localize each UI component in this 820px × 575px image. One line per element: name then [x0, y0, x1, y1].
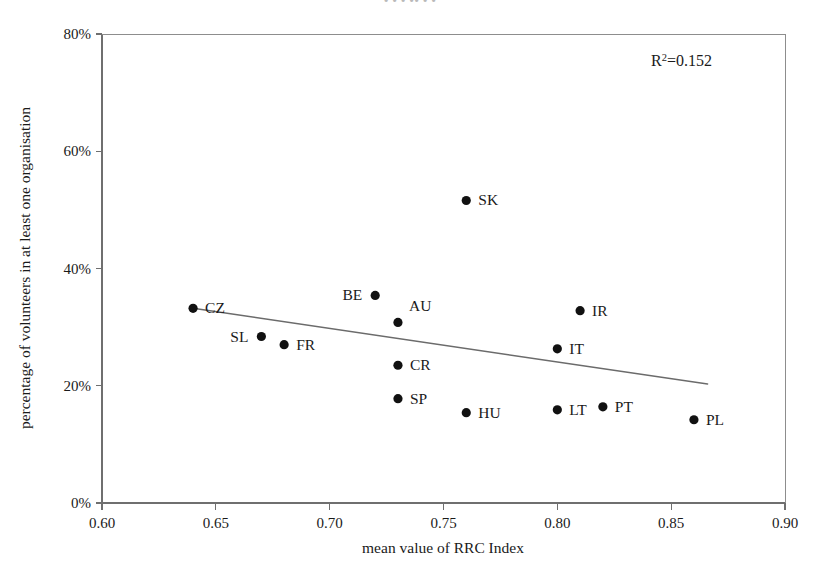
clipped-header-text: • • • •• • •: [0, 0, 820, 7]
r-squared-prefix: R: [651, 52, 662, 69]
x-axis-title: mean value of RRC Index: [362, 539, 524, 556]
data-point-label-hu: HU: [478, 404, 500, 421]
data-point-ir[interactable]: [576, 306, 585, 315]
data-point-label-pl: PL: [706, 411, 724, 428]
x-tick-label: 0.90: [772, 515, 798, 531]
data-point-pl[interactable]: [689, 415, 698, 424]
data-point-cz[interactable]: [188, 304, 197, 313]
data-point-label-ir: IR: [592, 302, 608, 319]
data-point-label-sl: SL: [230, 328, 248, 345]
x-tick-label: 0.70: [317, 515, 343, 531]
x-tick-label: 0.85: [658, 515, 684, 531]
data-point-group: CZSLFRBEAUCRSPSKHUITLTIRPTPL: [188, 191, 724, 427]
data-point-label-be: BE: [342, 286, 362, 303]
x-tick-label: 0.80: [544, 515, 570, 531]
data-point-label-sk: SK: [478, 191, 499, 208]
data-point-cr[interactable]: [393, 361, 402, 370]
data-point-fr[interactable]: [280, 340, 289, 349]
y-tick-label: 20%: [64, 378, 92, 394]
r-squared-value: =0.152: [667, 52, 712, 69]
data-point-it[interactable]: [553, 344, 562, 353]
data-point-label-lt: LT: [569, 401, 587, 418]
data-point-label-pt: PT: [615, 398, 634, 415]
r-squared-annotation: R2=0.152: [651, 52, 712, 70]
x-tick-label: 0.75: [430, 515, 456, 531]
x-axis-ticks: [102, 503, 785, 510]
x-axis-tick-labels: 0.600.650.700.750.800.850.90: [89, 515, 798, 531]
y-tick-label: 60%: [64, 143, 92, 159]
y-axis-tick-labels: 0%20%40%60%80%: [64, 26, 92, 511]
y-axis-title: percentage of volunteers in at least one…: [16, 107, 33, 429]
data-point-be[interactable]: [371, 291, 380, 300]
y-tick-label: 40%: [64, 261, 92, 277]
data-point-label-au: AU: [409, 297, 431, 314]
x-tick-label: 0.60: [89, 515, 115, 531]
y-tick-label: 80%: [64, 26, 92, 42]
data-point-label-cr: CR: [410, 356, 431, 373]
scatter-plot-figure: • • • •• • • 0%20%40%60%80% 0.600.650.70…: [0, 0, 820, 575]
data-point-au[interactable]: [393, 318, 402, 327]
data-point-lt[interactable]: [553, 405, 562, 414]
chart-canvas: 0%20%40%60%80% 0.600.650.700.750.800.850…: [0, 0, 820, 575]
data-point-sk[interactable]: [462, 196, 471, 205]
data-point-sl[interactable]: [257, 332, 266, 341]
data-point-label-fr: FR: [296, 336, 316, 353]
plot-frame: [102, 34, 785, 503]
data-point-label-cz: CZ: [205, 299, 225, 316]
x-tick-label: 0.65: [203, 515, 229, 531]
data-point-pt[interactable]: [598, 402, 607, 411]
data-point-label-sp: SP: [410, 390, 427, 407]
data-point-label-it: IT: [569, 340, 584, 357]
data-point-sp[interactable]: [393, 394, 402, 403]
y-axis-ticks: [96, 34, 102, 503]
regression-trendline: [193, 308, 708, 384]
data-point-hu[interactable]: [462, 408, 471, 417]
y-tick-label: 0%: [71, 495, 91, 511]
